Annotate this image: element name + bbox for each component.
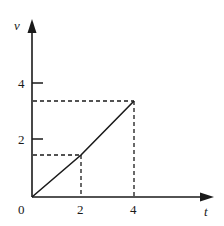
x-tick-label-2: 2 bbox=[77, 202, 84, 217]
x-tick-label-4: 4 bbox=[130, 202, 137, 217]
origin-label: 0 bbox=[18, 202, 25, 217]
y-axis-arrow-icon bbox=[28, 19, 37, 33]
y-tick-label-4: 4 bbox=[18, 76, 25, 91]
y-axis-label: v bbox=[14, 18, 20, 33]
x-axis-label: t bbox=[204, 204, 208, 219]
x-axis-arrow-icon bbox=[200, 193, 214, 202]
series-line bbox=[32, 101, 134, 197]
velocity-time-chart: v 4 2 0 2 4 t bbox=[0, 0, 224, 226]
y-tick-label-2: 2 bbox=[18, 132, 25, 147]
